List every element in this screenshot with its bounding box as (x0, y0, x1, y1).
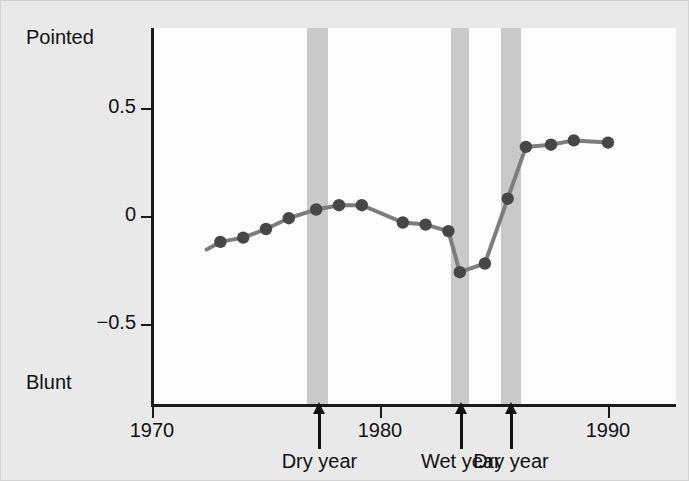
data-point (442, 225, 454, 237)
annotation-arrow-dry-year-1977 (318, 413, 321, 449)
data-point (568, 134, 580, 146)
data-point (419, 218, 431, 230)
series-markers (214, 134, 614, 278)
annotation-label-dry-year-1977: Dry year (258, 450, 380, 473)
data-point (545, 139, 557, 151)
annotation-label-dry-year-1985: Dry year (450, 450, 572, 473)
annotation-arrow-wet-year-1983 (460, 413, 463, 449)
data-point (356, 199, 368, 211)
data-point (520, 141, 532, 153)
data-point (310, 203, 322, 215)
data-point (260, 223, 272, 235)
data-point (237, 231, 249, 243)
annotation-arrow-dry-year-1985 (510, 413, 513, 449)
series-line (207, 140, 608, 272)
data-series-svg (0, 0, 689, 481)
axis-label-pointed: Pointed (26, 26, 94, 49)
data-point (333, 199, 345, 211)
data-point (502, 193, 514, 205)
data-point (283, 212, 295, 224)
axis-label-blunt: Blunt (26, 371, 72, 394)
data-point (454, 266, 466, 278)
chart-figure: 0.50−0.5197019801990 Pointed Blunt Dry y… (0, 0, 689, 481)
data-point (214, 236, 226, 248)
data-point (602, 136, 614, 148)
data-point (397, 216, 409, 228)
data-point (479, 257, 491, 269)
